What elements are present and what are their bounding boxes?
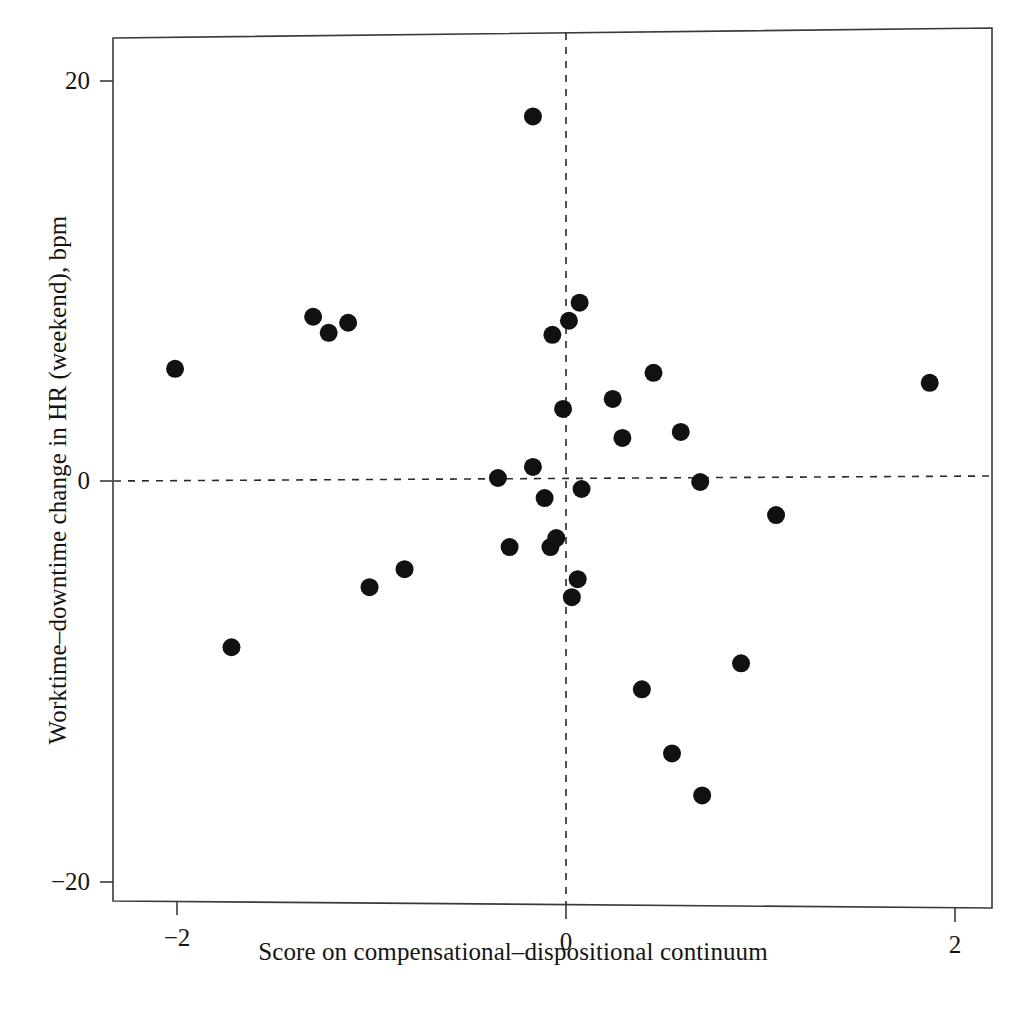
data-point	[304, 308, 322, 326]
data-point	[536, 489, 554, 507]
data-point	[767, 506, 785, 524]
data-point	[547, 529, 565, 547]
data-point	[571, 294, 589, 312]
reference-lines	[114, 33, 991, 905]
data-point	[222, 638, 240, 656]
data-point	[573, 480, 591, 498]
horizontal-zero-line	[114, 476, 991, 481]
data-point	[554, 400, 572, 418]
data-point	[645, 364, 663, 382]
data-point	[732, 654, 750, 672]
data-point	[613, 429, 631, 447]
data-point	[691, 473, 709, 491]
data-point	[563, 588, 581, 606]
x-axis-title: Score on compensational–dispositional co…	[0, 938, 1026, 966]
scatter-plot-figure: 20 0 −20 −2 0 2 Score on compensational–…	[0, 0, 1026, 1033]
data-point	[524, 458, 542, 476]
plot-canvas	[0, 0, 1026, 1033]
data-point	[361, 578, 379, 596]
y-axis-ticks	[100, 81, 113, 882]
data-point	[693, 786, 711, 804]
data-point	[921, 374, 939, 392]
data-point	[604, 390, 622, 408]
data-point	[501, 538, 519, 556]
plot-frame	[113, 28, 992, 908]
data-point	[560, 312, 578, 330]
data-point	[396, 560, 414, 578]
data-point	[320, 324, 338, 342]
data-point	[489, 469, 507, 487]
y-axis-title: Worktime–downtime change in HR (weekend)…	[44, 30, 72, 930]
data-point	[339, 314, 357, 332]
data-point	[543, 326, 561, 344]
data-point	[672, 423, 690, 441]
data-point	[569, 570, 587, 588]
data-point	[166, 360, 184, 378]
data-point	[663, 744, 681, 762]
scatter-points-layer	[166, 107, 939, 804]
data-point	[633, 680, 651, 698]
data-point	[524, 107, 542, 125]
